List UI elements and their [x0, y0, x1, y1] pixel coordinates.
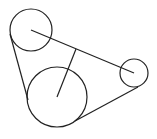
belt-bottom-segment	[75, 87, 138, 121]
perpendicular-line	[57, 49, 76, 97]
center-line	[31, 30, 134, 73]
belt-pulley-diagram	[0, 0, 157, 139]
belt-left-segment	[10, 34, 28, 100]
